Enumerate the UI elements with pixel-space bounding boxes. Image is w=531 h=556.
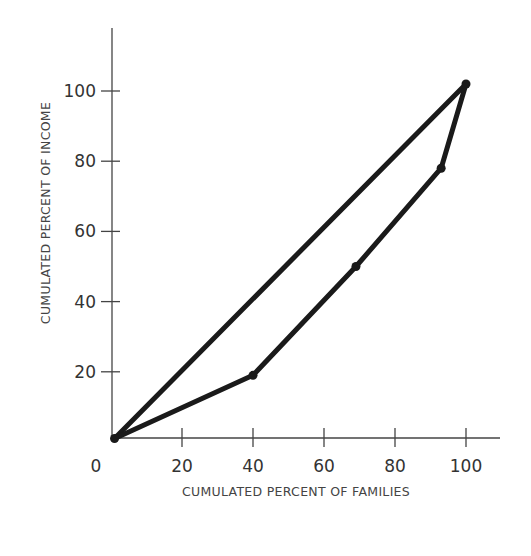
y-tick-label: 60 (74, 221, 96, 241)
data-point (462, 79, 471, 88)
x-ticks: 020406080100 (91, 428, 483, 476)
y-axis-title: CUMULATED PERCENT OF INCOME (38, 102, 53, 324)
data-point (249, 371, 258, 380)
data-point (110, 434, 119, 443)
x-tick-label: 100 (450, 456, 482, 476)
y-tick-label: 20 (74, 362, 96, 382)
series-line (115, 84, 466, 439)
x-axis-title: CUMULATED PERCENT OF FAMILIES (182, 484, 410, 499)
x-tick-label: 80 (384, 456, 406, 476)
x-tick-label: 60 (313, 456, 335, 476)
y-tick-label: 100 (64, 81, 96, 101)
series-group (110, 79, 470, 443)
x-tick-label: 40 (242, 456, 264, 476)
x-tick-label: 20 (171, 456, 193, 476)
y-tick-label: 80 (74, 151, 96, 171)
y-tick-label: 40 (74, 292, 96, 312)
data-point (351, 262, 360, 271)
lorenz-chart: 20406080100 020406080100 CUMULATED PERCE… (0, 0, 531, 556)
data-point (437, 164, 446, 173)
x-tick-label: 0 (91, 456, 102, 476)
